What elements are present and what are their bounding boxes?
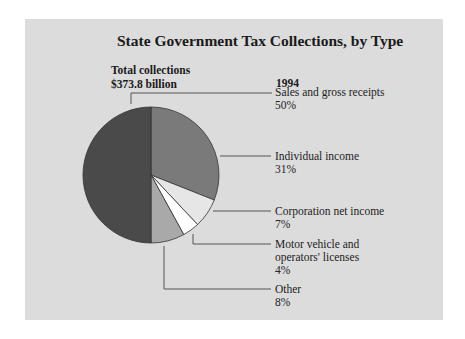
leader-sales bbox=[131, 93, 272, 104]
label-sales: Sales and gross receipts 50% bbox=[275, 86, 385, 112]
slice-sales bbox=[83, 107, 151, 243]
label-other: Other 8% bbox=[275, 283, 301, 309]
pie-chart bbox=[0, 0, 465, 339]
leader-other bbox=[164, 246, 271, 289]
label-corporation: Corporation net income 7% bbox=[275, 205, 384, 231]
label-individual: Individual income 31% bbox=[275, 150, 359, 176]
label-motor-vehicle: Motor vehicle and operators' licenses 4% bbox=[275, 238, 359, 277]
leader-motor bbox=[193, 234, 271, 244]
